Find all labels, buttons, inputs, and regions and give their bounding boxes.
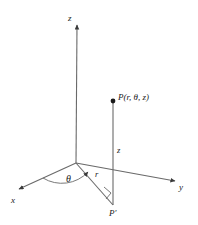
y-axis-line (76, 163, 175, 181)
theta-angle-label: θ (66, 174, 71, 184)
diagram-canvas (0, 0, 198, 225)
right-angle-marker (104, 187, 111, 199)
y-axis-label: y (179, 183, 183, 192)
z-axis-line (76, 25, 77, 163)
point-P-label: P(r, θ, z) (118, 93, 149, 102)
point-P-dot (111, 99, 116, 104)
z-axis-label: z (68, 14, 72, 23)
r-radial-label: r (95, 170, 98, 179)
z-height-label: z (117, 146, 120, 155)
x-axis-label: x (11, 196, 15, 205)
cylindrical-coordinates-figure: z x y P(r, θ, z) P′ z r θ (0, 0, 198, 225)
point-P-prime-label: P′ (109, 209, 116, 218)
